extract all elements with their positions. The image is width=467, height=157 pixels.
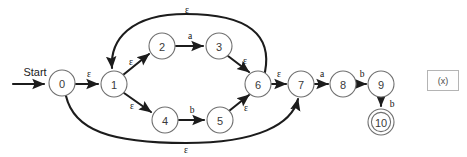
transition-5-to-6: ε (229, 95, 249, 113)
transition-1-to-2: ε (123, 54, 149, 75)
state-label-0: 0 (59, 78, 65, 90)
state-node-1[interactable]: 1 (101, 71, 127, 97)
transition-9-to-10: b (381, 97, 395, 109)
state-node-0[interactable]: 0 (49, 70, 75, 96)
transition-label-0-7: ε (184, 145, 188, 155)
state-label-6: 6 (255, 79, 261, 91)
transition-label-6-1: ε (185, 5, 189, 15)
transition-label-5-6: ε (244, 103, 248, 113)
state-label-1: 1 (111, 79, 117, 91)
aux-placeholder-box[interactable]: (x) (427, 70, 459, 91)
start-label: Start (23, 66, 46, 78)
transition-label-8-9: b (360, 69, 365, 79)
transition-3-to-6: ε (228, 56, 249, 72)
transition-4-to-5: b (179, 105, 204, 120)
transition-label-4-5: b (190, 105, 195, 115)
transition-start-to-0: Start (13, 66, 47, 84)
state-label-2: 2 (159, 41, 165, 53)
transition-7-to-8: a (315, 69, 328, 84)
state-node-3[interactable]: 3 (206, 33, 232, 59)
state-node-9[interactable]: 9 (368, 71, 394, 97)
state-label-9: 9 (378, 79, 384, 91)
aux-placeholder-label: (x) (438, 76, 449, 86)
state-label-5: 5 (217, 115, 223, 127)
transition-2-to-3: a (176, 31, 203, 46)
transition-0-to-7-arc: ε (66, 96, 298, 155)
state-node-6[interactable]: 6 (245, 71, 271, 97)
state-node-4[interactable]: 4 (152, 107, 178, 133)
state-label-10: 10 (375, 117, 387, 129)
state-node-10-accepting[interactable]: 10 (368, 109, 394, 135)
state-node-7[interactable]: 7 (288, 71, 314, 97)
transition-label-9-10: b (390, 99, 395, 109)
transition-6-to-7: ε (272, 69, 286, 84)
state-label-4: 4 (162, 115, 168, 127)
transition-0-to-1: ε (76, 69, 98, 84)
transition-label-1-4: ε (130, 101, 134, 111)
transition-label-3-6: ε (243, 56, 247, 66)
state-label-7: 7 (298, 79, 304, 91)
diagram-canvas: Start ε ε ε a b ε (0, 0, 467, 157)
state-node-2[interactable]: 2 (149, 33, 175, 59)
state-node-8[interactable]: 8 (330, 71, 356, 97)
transition-label-1-2: ε (129, 57, 133, 67)
transition-label-7-8: a (320, 69, 325, 79)
transition-8-to-9: b (357, 69, 366, 84)
state-label-8: 8 (340, 79, 346, 91)
nfa-diagram: Start ε ε ε a b ε (0, 0, 467, 157)
state-node-5[interactable]: 5 (207, 107, 233, 133)
transition-label-6-7: ε (277, 69, 281, 79)
transition-label-2-3: a (188, 31, 193, 41)
transition-1-to-4: ε (124, 93, 151, 112)
state-label-3: 3 (216, 41, 222, 53)
transition-label-0-1: ε (87, 69, 91, 79)
